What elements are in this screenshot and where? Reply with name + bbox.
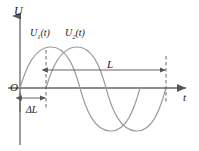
curve-u1 (20, 47, 140, 131)
curve-u2-label-suffix: (t) (75, 27, 84, 38)
curve-u2-label: U2(t) (65, 28, 85, 41)
curve-u1-label: U1(t) (30, 28, 50, 41)
interval-long-label: L (107, 59, 113, 70)
waveform-plot (0, 0, 199, 151)
curve-u2 (46, 47, 166, 131)
interval-short-label: ΔL (26, 105, 37, 115)
waveform-figure: U t O U1(t) U2(t) L ΔL (0, 0, 199, 151)
origin-label: O (10, 82, 18, 93)
curve-u1-label-suffix: (t) (40, 27, 49, 38)
y-axis-label: U (14, 5, 23, 17)
x-axis-label: t (183, 92, 186, 103)
